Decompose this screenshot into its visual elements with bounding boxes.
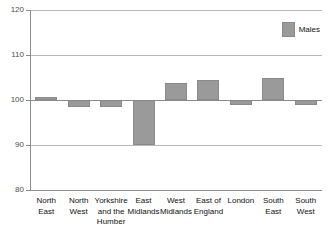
y-tick-label-110: 110 (0, 51, 24, 59)
bar-london[interactable] (230, 100, 252, 105)
y-tick-label-100: 100 (0, 96, 24, 104)
bar-south-east[interactable] (262, 78, 284, 101)
bar-north-west[interactable] (68, 100, 90, 107)
bar-east-midlands[interactable] (133, 100, 155, 145)
y-tick-label-120: 120 (0, 6, 24, 14)
bar-slot (62, 10, 94, 191)
bar-slot (192, 10, 224, 191)
bar-slot (225, 10, 257, 191)
y-tick-label-90: 90 (0, 141, 24, 149)
bar-slot (160, 10, 192, 191)
legend-label-males: Males (299, 26, 320, 34)
bar-east-of-england[interactable] (197, 80, 219, 100)
bar-north-east[interactable] (35, 97, 57, 100)
bars-layer (30, 10, 322, 191)
legend-swatch-males (282, 22, 295, 37)
x-label-south-west: SouthWest (286, 196, 326, 217)
x-axis-labels: NorthEastNorthWestYorkshireand theHumber… (30, 196, 322, 244)
bar-south-west[interactable] (295, 100, 317, 105)
bar-chart: 8090100110120 NorthEastNorthWestYorkshir… (0, 0, 328, 246)
bar-slot (127, 10, 159, 191)
bar-slot (257, 10, 289, 191)
bar-slot (95, 10, 127, 191)
bar-yorkshire-and-the-humber[interactable] (100, 100, 122, 107)
chart-legend: Males (282, 22, 320, 37)
bar-slot (30, 10, 62, 191)
y-tick-label-80: 80 (0, 186, 24, 194)
bar-slot (290, 10, 322, 191)
bar-west-midlands[interactable] (165, 83, 187, 100)
